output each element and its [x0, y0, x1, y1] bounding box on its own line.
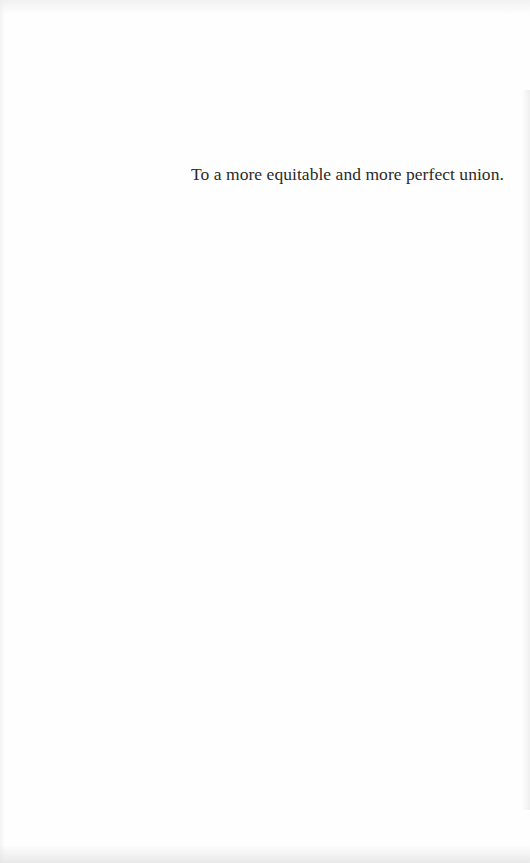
scan-shadow-bottom — [0, 845, 530, 863]
scan-shadow-right — [522, 90, 530, 810]
scan-shadow-left — [0, 0, 5, 863]
dedication-text: To a more equitable and more perfect uni… — [191, 164, 504, 185]
book-page: To a more equitable and more perfect uni… — [0, 0, 530, 863]
scan-shadow-top — [0, 0, 530, 14]
